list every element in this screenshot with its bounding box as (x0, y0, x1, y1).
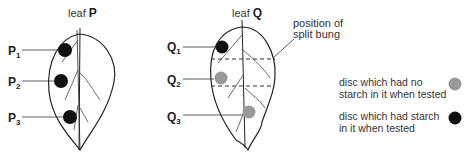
split-bung-annotation-line2: split bung (293, 28, 340, 40)
legend-no-starch-line1: disc which had no (339, 76, 446, 88)
label-p1: P (8, 44, 16, 58)
disc-q3 (243, 106, 256, 119)
disc-q1 (216, 41, 229, 54)
disc-p3 (63, 110, 77, 124)
legend-starch-line1: disc which had starch (339, 110, 439, 122)
legend-starch-text: disc which had starch in it when tested (339, 110, 439, 134)
svg-text:Q2: Q2 (167, 73, 181, 89)
svg-text:Q3: Q3 (167, 110, 181, 126)
disc-q2 (215, 72, 228, 85)
disc-p2 (54, 74, 68, 88)
leaf-p-title: leaf P (68, 6, 97, 20)
leaf-q: Q1 Q2 Q3 leaf Q position of split bung (167, 6, 344, 150)
svg-text:P2: P2 (8, 75, 21, 91)
legend-starch-line2: in it when tested (339, 122, 439, 134)
leaf-p: P1 P2 P3 leaf P (8, 6, 115, 150)
legend-no-starch-text: disc which had no starch in it when test… (339, 76, 446, 100)
svg-text:P1: P1 (8, 44, 21, 60)
legend-no-starch-line2: starch in it when tested (339, 88, 446, 100)
svg-text:Q1: Q1 (167, 40, 181, 56)
disc-p1 (58, 43, 72, 57)
legend-no-starch-disc (449, 78, 462, 91)
leaf-q-title: leaf Q (232, 6, 262, 20)
svg-text:P3: P3 (8, 111, 21, 127)
legend-starch-disc (449, 112, 462, 125)
